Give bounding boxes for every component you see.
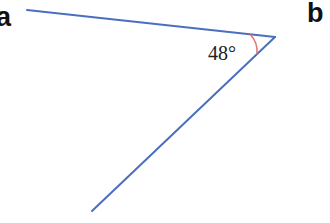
angle-diagram: 48° [0,0,330,223]
angle-arc [250,34,257,54]
lower-ray [92,37,275,211]
angle-value-label: 48° [208,42,236,64]
upper-ray [27,10,275,37]
